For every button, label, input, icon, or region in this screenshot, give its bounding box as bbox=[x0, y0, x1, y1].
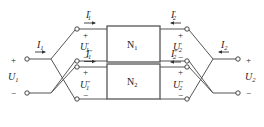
n2-right-plus-terminal bbox=[185, 65, 189, 69]
i1prime-label: I′1 bbox=[85, 9, 91, 21]
n1-left-plus-terminal bbox=[75, 27, 79, 31]
n2-right-minus-sign: − bbox=[178, 90, 183, 100]
port2-minus-sign: − bbox=[246, 88, 251, 98]
n1-right-plus-sign: + bbox=[178, 30, 183, 40]
n2-left-plus-terminal bbox=[75, 65, 79, 69]
port1-minus-terminal bbox=[25, 91, 29, 95]
n1-right-minus-sign: − bbox=[178, 52, 183, 62]
n1-right-plus-terminal bbox=[185, 27, 189, 31]
i2prime-label: I′2 bbox=[170, 9, 177, 21]
n2-left-minus-sign: − bbox=[83, 90, 88, 100]
n1-right-minus-terminal bbox=[185, 59, 189, 63]
n2-right-plus-sign: + bbox=[178, 67, 183, 77]
port2-plus-sign: + bbox=[246, 55, 251, 65]
port1-minus-sign: − bbox=[11, 88, 16, 98]
u1-label: U1 bbox=[8, 71, 18, 83]
left-wiring bbox=[29, 29, 107, 99]
i1-label: I1 bbox=[36, 39, 44, 51]
n2-left-minus-terminal bbox=[75, 97, 79, 101]
port1-plus-terminal bbox=[25, 57, 29, 61]
port1-plus-sign: + bbox=[11, 55, 16, 65]
port2-plus-terminal bbox=[236, 57, 240, 61]
n1-left-minus-sign: − bbox=[83, 52, 88, 62]
n1-left-minus-terminal bbox=[75, 59, 79, 63]
i2-label: I2 bbox=[220, 39, 228, 51]
right-wiring bbox=[160, 29, 236, 99]
n2-left-plus-sign: + bbox=[83, 67, 88, 77]
port2-minus-terminal bbox=[236, 91, 240, 95]
n2-right-minus-terminal bbox=[185, 97, 189, 101]
circuit-diagram: N1 N2 bbox=[0, 0, 264, 127]
u2-label: U2 bbox=[245, 71, 256, 83]
n1-left-plus-sign: + bbox=[83, 30, 88, 40]
